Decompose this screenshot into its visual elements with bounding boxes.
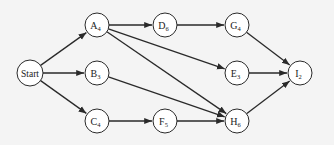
node-c: C4 bbox=[85, 109, 109, 133]
node-e: E3 bbox=[225, 61, 249, 85]
edge-h-to-i bbox=[247, 81, 290, 114]
diagram-svg: StartA4B3C4D6F5G4E3H6I2 bbox=[0, 0, 334, 145]
node-a: A4 bbox=[85, 13, 109, 37]
node-label: Start bbox=[21, 69, 39, 79]
node-i: I2 bbox=[288, 61, 312, 85]
edge-start-to-c bbox=[41, 81, 87, 114]
node-f: F5 bbox=[153, 109, 177, 133]
edges-layer bbox=[41, 25, 290, 121]
edge-a-to-h bbox=[107, 32, 226, 114]
node-h: H6 bbox=[225, 109, 249, 133]
node-d: D6 bbox=[153, 13, 177, 37]
node-start: Start bbox=[17, 60, 43, 86]
network-diagram: StartA4B3C4D6F5G4E3H6I2 bbox=[0, 0, 334, 145]
node-b: B3 bbox=[85, 61, 109, 85]
edge-start-to-a bbox=[41, 33, 87, 66]
edge-g-to-i bbox=[247, 32, 290, 65]
node-g: G4 bbox=[225, 13, 249, 37]
